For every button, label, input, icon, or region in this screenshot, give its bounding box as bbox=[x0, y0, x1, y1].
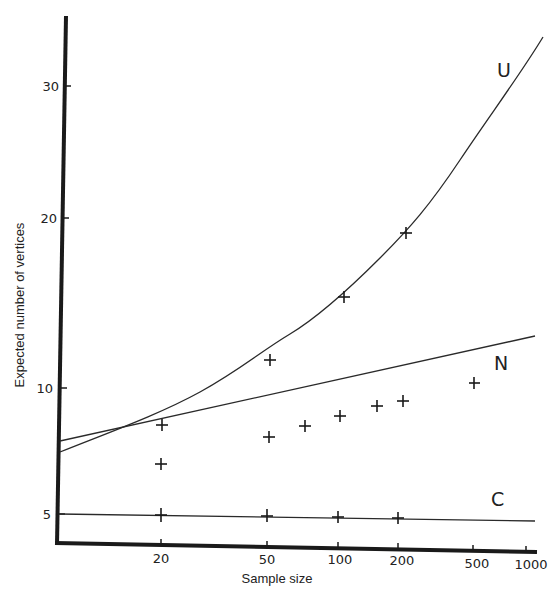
markers bbox=[155, 227, 480, 524]
point-C-200 bbox=[392, 512, 404, 524]
point-N-50 bbox=[263, 431, 275, 443]
x-tick-label-200: 200 bbox=[390, 553, 415, 568]
point-C-50 bbox=[261, 509, 273, 522]
point-N-20a bbox=[156, 419, 168, 431]
y-tick-label-20: 20 bbox=[40, 211, 57, 226]
y-tick-label-30: 30 bbox=[42, 79, 59, 94]
point-C-100 bbox=[332, 511, 344, 523]
y-axis-title: Expected number of vertices bbox=[12, 222, 27, 387]
x-tick-label-1000: 1000 bbox=[514, 557, 547, 572]
x-tick-label-500: 500 bbox=[465, 556, 490, 571]
x-axis-title: Sample size bbox=[242, 571, 313, 586]
point-U-100 bbox=[338, 291, 350, 303]
point-U-50 bbox=[264, 354, 276, 366]
curve-C bbox=[59, 514, 535, 521]
series-label-C: C bbox=[491, 488, 504, 510]
curve-N bbox=[60, 336, 535, 441]
point-N-100 bbox=[334, 410, 346, 422]
point-N-150 bbox=[371, 400, 383, 412]
y-tick-label-10: 10 bbox=[36, 381, 53, 396]
point-N-500 bbox=[469, 377, 480, 389]
point-U-200 bbox=[400, 227, 412, 239]
y-tick-label-5: 5 bbox=[43, 507, 51, 522]
x-tick-label-100: 100 bbox=[328, 552, 353, 567]
x-tick-label-20: 20 bbox=[153, 551, 170, 566]
series-label-N: N bbox=[494, 352, 508, 374]
series-label-U: U bbox=[497, 59, 511, 81]
y-axis bbox=[57, 16, 71, 545]
chart-canvas: 5 10 20 30 20 50 100 200 500 1000 Sample… bbox=[0, 0, 558, 598]
point-N-200 bbox=[397, 395, 409, 407]
point-N-75 bbox=[299, 420, 311, 432]
x-tick-label-50: 50 bbox=[259, 552, 276, 567]
curve-U bbox=[60, 37, 543, 452]
x-axis bbox=[55, 539, 537, 552]
point-N-20b bbox=[155, 458, 167, 470]
point-C-20 bbox=[155, 508, 167, 522]
